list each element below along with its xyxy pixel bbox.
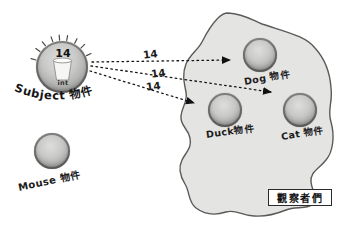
- observers-group-caption: 觀察者們: [277, 190, 323, 205]
- arrow-value-label-dog: 14: [142, 47, 158, 61]
- value-glass-icon: [53, 58, 71, 80]
- subject-state-value: 14: [51, 47, 75, 60]
- diagram-canvas: Subject 物件 14 int 14 14 14 Dog 物件 Duck物件…: [0, 0, 344, 232]
- subject-state-type: int: [52, 79, 74, 87]
- arrow-value-label-duck: 14: [145, 79, 161, 93]
- arrow-value-label-cat: 14: [150, 66, 166, 80]
- observers-group-caption-box: 觀察者們: [268, 189, 332, 206]
